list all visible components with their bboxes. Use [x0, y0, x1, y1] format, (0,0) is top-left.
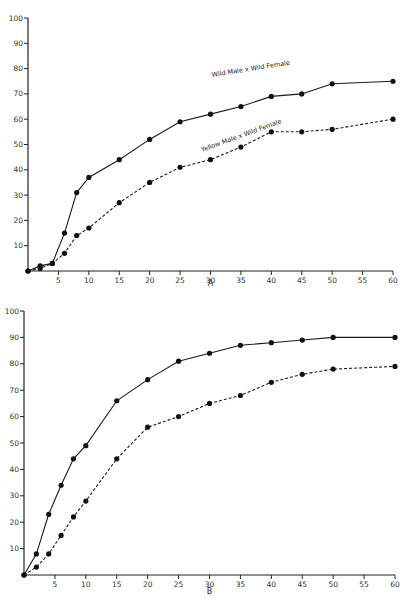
data-point	[34, 564, 39, 569]
y-tick-label: 70	[13, 89, 23, 98]
data-point	[83, 498, 88, 503]
data-point	[300, 372, 305, 377]
y-tick-label: 20	[13, 216, 23, 225]
data-point	[59, 483, 64, 488]
x-tick-label: 55	[359, 580, 369, 589]
series-line-dashed	[24, 366, 395, 575]
data-point	[238, 144, 243, 149]
series-annotation-wild-male: Wild Male x Wild Female	[211, 59, 290, 79]
y-tick-label: 70	[9, 386, 19, 395]
data-point	[299, 129, 304, 134]
x-tick-label: 35	[236, 580, 246, 589]
data-point	[390, 79, 395, 84]
y-tick-label: 100	[9, 14, 24, 23]
data-point	[238, 104, 243, 109]
data-point	[62, 251, 67, 256]
data-point	[330, 81, 335, 86]
y-tick-label: 10	[13, 241, 23, 250]
x-tick-label: 15	[114, 276, 124, 285]
data-point	[300, 337, 305, 342]
x-tick-label: 25	[175, 276, 185, 285]
data-point	[114, 398, 119, 403]
x-tick-label: 40	[267, 580, 277, 589]
panel-label: B	[207, 587, 213, 596]
y-tick-label: 100	[5, 307, 20, 316]
data-point	[114, 456, 119, 461]
x-tick-label: 45	[297, 580, 307, 589]
data-point	[59, 533, 64, 538]
data-point	[71, 514, 76, 519]
data-point	[176, 414, 181, 419]
data-point	[117, 157, 122, 162]
data-point	[21, 572, 26, 577]
x-tick-label: 20	[143, 580, 153, 589]
y-tick-label: 40	[9, 465, 19, 474]
y-tick-label: 60	[13, 115, 23, 124]
data-point	[71, 456, 76, 461]
data-point	[299, 91, 304, 96]
data-point	[83, 443, 88, 448]
y-tick-label: 30	[13, 191, 23, 200]
data-point	[46, 551, 51, 556]
data-point	[269, 340, 274, 345]
data-point	[269, 94, 274, 99]
data-point	[46, 512, 51, 517]
data-point	[176, 359, 181, 364]
data-point	[62, 230, 67, 235]
y-tick-label: 90	[13, 39, 23, 48]
data-point	[177, 165, 182, 170]
series-line-solid	[28, 81, 393, 271]
data-point	[34, 551, 39, 556]
data-point	[269, 380, 274, 385]
series-line-solid	[24, 337, 395, 575]
data-point	[238, 343, 243, 348]
x-tick-label: 50	[327, 276, 337, 285]
x-tick-label: 55	[358, 276, 368, 285]
data-point	[392, 364, 397, 369]
y-tick-label: 90	[9, 333, 19, 342]
data-point	[147, 137, 152, 142]
x-tick-label: 5	[53, 580, 58, 589]
data-point	[74, 190, 79, 195]
data-point	[177, 119, 182, 124]
data-point	[207, 351, 212, 356]
data-point	[145, 377, 150, 382]
y-tick-label: 80	[9, 359, 19, 368]
y-tick-label: 30	[9, 491, 19, 500]
x-tick-label: 40	[267, 276, 277, 285]
y-tick-label: 60	[9, 412, 19, 421]
data-point	[208, 112, 213, 117]
figure: 1020304050607080901005101520253035404550…	[0, 0, 408, 601]
chart-panel-b: 1020304050607080901005101520253035404550…	[5, 307, 400, 597]
panel-label: A	[208, 279, 214, 288]
x-tick-label: 35	[236, 276, 246, 285]
data-point	[269, 129, 274, 134]
x-tick-label: 25	[174, 580, 184, 589]
data-point	[86, 175, 91, 180]
x-tick-label: 60	[388, 276, 398, 285]
x-tick-label: 50	[328, 580, 338, 589]
data-point	[330, 127, 335, 132]
data-point	[392, 335, 397, 340]
data-point	[145, 425, 150, 430]
y-tick-label: 50	[13, 140, 23, 149]
data-point	[331, 335, 336, 340]
data-point	[238, 393, 243, 398]
data-point	[74, 233, 79, 238]
data-point	[208, 157, 213, 162]
data-point	[50, 261, 55, 266]
x-tick-label: 10	[81, 580, 91, 589]
chart-panel-a: 1020304050607080901005101520253035404550…	[9, 14, 398, 289]
data-point	[207, 401, 212, 406]
data-point	[117, 200, 122, 205]
data-point	[25, 268, 30, 273]
data-point	[147, 180, 152, 185]
x-tick-label: 10	[84, 276, 94, 285]
data-point	[86, 225, 91, 230]
x-tick-label: 45	[297, 276, 307, 285]
data-point	[331, 366, 336, 371]
x-tick-label: 15	[112, 580, 122, 589]
y-tick-label: 20	[9, 518, 19, 527]
y-tick-label: 80	[13, 64, 23, 73]
y-tick-label: 50	[9, 439, 19, 448]
